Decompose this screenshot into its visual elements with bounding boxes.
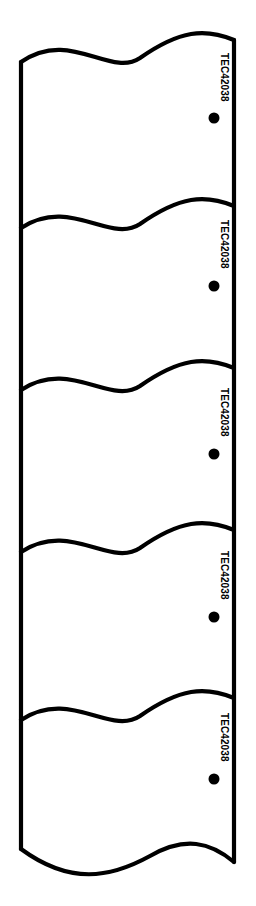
panel-4-dot <box>209 612 220 623</box>
wave-separator-5 <box>21 691 234 721</box>
panel-1-label: TEC42038 <box>219 53 230 102</box>
bottom-edge-wave <box>21 844 234 875</box>
wave-separator-4 <box>21 523 234 553</box>
technical-drawing-figure: TEC42038 TEC42038 TEC42038 TEC42038 TEC4… <box>0 0 256 906</box>
panel-1-dot <box>209 113 220 124</box>
panel-2-annotation: TEC42038 <box>209 220 231 292</box>
panel-5-annotation: TEC42038 <box>209 713 231 785</box>
panel-3-dot <box>209 449 220 460</box>
panel-3-label: TEC42038 <box>219 388 230 437</box>
panel-2-label: TEC42038 <box>219 220 230 269</box>
panel-4-label: TEC42038 <box>219 551 230 600</box>
panel-2-dot <box>209 281 220 292</box>
wave-separator-3 <box>21 361 234 391</box>
panel-3-annotation: TEC42038 <box>209 388 231 460</box>
wave-separator-2 <box>21 199 234 229</box>
panel-1-annotation: TEC42038 <box>209 53 231 124</box>
panel-4-annotation: TEC42038 <box>209 551 231 623</box>
panel-5-dot <box>209 774 220 785</box>
panel-5-label: TEC42038 <box>219 713 230 762</box>
wave-separator-1 <box>21 33 234 63</box>
panel-assembly-drawing: TEC42038 TEC42038 TEC42038 TEC42038 TEC4… <box>0 0 256 906</box>
